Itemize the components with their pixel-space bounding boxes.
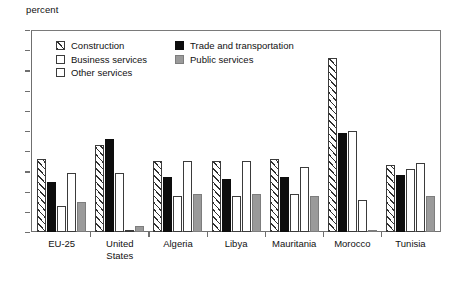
- legend-column-right: Trade and transportationPublic services: [175, 40, 294, 78]
- x-axis-label: Algeria: [149, 238, 207, 261]
- bar-business: [57, 206, 66, 232]
- bar-trade: [338, 133, 347, 232]
- bar-business: [232, 196, 241, 232]
- legend-label: Trade and transportation: [190, 40, 294, 51]
- y-axis-tick-mark: [25, 50, 30, 51]
- legend-label: Other services: [71, 67, 132, 78]
- x-axis-labels: EU-25United StatesAlgeriaLibyaMauritania…: [33, 238, 440, 261]
- bar-public: [368, 230, 377, 232]
- chart-legend: ConstructionBusiness servicesOther servi…: [56, 40, 294, 78]
- bar-construction: [153, 161, 162, 232]
- x-axis-label: Mauritania: [265, 238, 323, 261]
- bar-other: [242, 161, 251, 232]
- y-axis-tick-mark: [25, 151, 30, 152]
- bar-group: [323, 30, 381, 232]
- bar-trade: [222, 179, 231, 232]
- legend-swatch-business-icon: [56, 55, 65, 64]
- bar-trade: [280, 177, 289, 232]
- bar-business: [406, 169, 415, 232]
- y-axis-tick-mark: [25, 232, 30, 233]
- bar-public: [310, 196, 319, 232]
- legend-item: Other services: [56, 67, 147, 78]
- y-axis-tick-mark: [25, 192, 30, 193]
- y-axis-tick-mark: [25, 91, 30, 92]
- bar-other: [416, 163, 425, 232]
- bar-other: [125, 230, 134, 232]
- bar-public: [252, 194, 261, 232]
- bar-chart: percent 1009080706050403020100 EU-25Unit…: [0, 0, 458, 287]
- legend-item: Business services: [56, 54, 147, 65]
- legend-label: Public services: [190, 54, 253, 65]
- legend-swatch-other-icon: [56, 68, 65, 77]
- legend-label: Construction: [71, 40, 124, 51]
- legend-item: Public services: [175, 54, 294, 65]
- x-axis-label: Tunisia: [381, 238, 439, 261]
- bar-public: [193, 194, 202, 232]
- y-axis-tick-mark: [25, 171, 30, 172]
- bar-trade: [396, 175, 405, 232]
- x-axis-label: United States: [91, 238, 149, 261]
- bar-public: [77, 202, 86, 232]
- legend-item: Trade and transportation: [175, 40, 294, 51]
- x-axis-label: Libya: [207, 238, 265, 261]
- bar-business: [290, 194, 299, 232]
- bar-trade: [47, 182, 56, 233]
- bar-other: [67, 173, 76, 232]
- bar-construction: [328, 58, 337, 232]
- legend-swatch-public-icon: [175, 55, 184, 64]
- legend-label: Business services: [71, 54, 147, 65]
- bar-public: [426, 196, 435, 232]
- y-axis-tick-mark: [25, 70, 30, 71]
- bar-public: [135, 226, 144, 232]
- legend-item: Construction: [56, 40, 147, 51]
- plot-right-border: [440, 30, 441, 232]
- bar-other: [300, 167, 309, 232]
- bar-construction: [386, 165, 395, 232]
- bar-trade: [163, 177, 172, 232]
- legend-swatch-trade-icon: [175, 41, 184, 50]
- bar-group: [381, 30, 439, 232]
- y-axis-unit-label: percent: [26, 4, 58, 15]
- bar-other: [358, 200, 367, 232]
- bar-business: [173, 196, 182, 232]
- bar-trade: [105, 139, 114, 232]
- x-axis-label: Morocco: [323, 238, 381, 261]
- y-axis-tick-mark: [25, 131, 30, 132]
- bar-construction: [270, 159, 279, 232]
- legend-swatch-construction-icon: [56, 41, 65, 50]
- x-axis-label: EU-25: [33, 238, 91, 261]
- bar-construction: [212, 161, 221, 232]
- bar-business: [348, 131, 357, 232]
- bar-construction: [95, 145, 104, 232]
- bar-business: [115, 173, 124, 232]
- bar-other: [183, 161, 192, 232]
- bar-construction: [37, 159, 46, 232]
- legend-column-left: ConstructionBusiness servicesOther servi…: [56, 40, 147, 78]
- y-axis-tick-mark: [25, 30, 30, 31]
- y-axis-tick-mark: [25, 212, 30, 213]
- y-axis-tick-mark: [25, 111, 30, 112]
